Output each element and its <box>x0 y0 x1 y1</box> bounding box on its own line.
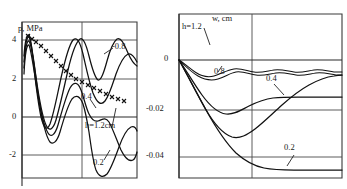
left-curve-label-h04: 0.4 <box>81 92 92 101</box>
scientific-figure: p, MPa 4 2 0 -2 -0.8 0.4 h=1.2cm 0.2 <box>0 0 347 189</box>
right-curve-label-h12: h=1.2 <box>182 22 202 31</box>
right-curve-label-h08: 0.8 <box>214 67 225 76</box>
left-curve-label-h08: -0.8 <box>112 42 125 51</box>
right-axis-title: w, cm <box>212 14 232 23</box>
right-ytick-0: 0 <box>164 54 168 63</box>
left-ytick-2: 2 <box>12 74 16 83</box>
right-ytick-neg004: -0.04 <box>146 151 164 160</box>
left-ytick-neg2: -2 <box>9 150 16 159</box>
panel-pressure-vs-time: p, MPa 4 2 0 -2 -0.8 0.4 h=1.2cm 0.2 <box>0 0 174 189</box>
left-axis-title: p, MPa <box>18 24 43 33</box>
right-curve-label-h04: 0.4 <box>266 74 277 83</box>
right-leader-h04 <box>274 84 284 95</box>
right-leader-h12 <box>204 28 210 45</box>
right-ytick-neg002: -0.02 <box>146 104 164 113</box>
left-curve-label-h02: 0.2 <box>93 158 104 167</box>
right-curve-h12-upper <box>179 60 342 77</box>
left-ytick-4: 4 <box>12 35 16 44</box>
left-curve-label-h12: h=1.2cm <box>85 121 115 130</box>
right-curve-label-h02: 0.2 <box>284 143 295 152</box>
panel-deflection-vs-time: w, cm h=1.2 0.8 0.4 0.2 <box>174 0 347 189</box>
left-ytick-0: 0 <box>12 112 16 121</box>
